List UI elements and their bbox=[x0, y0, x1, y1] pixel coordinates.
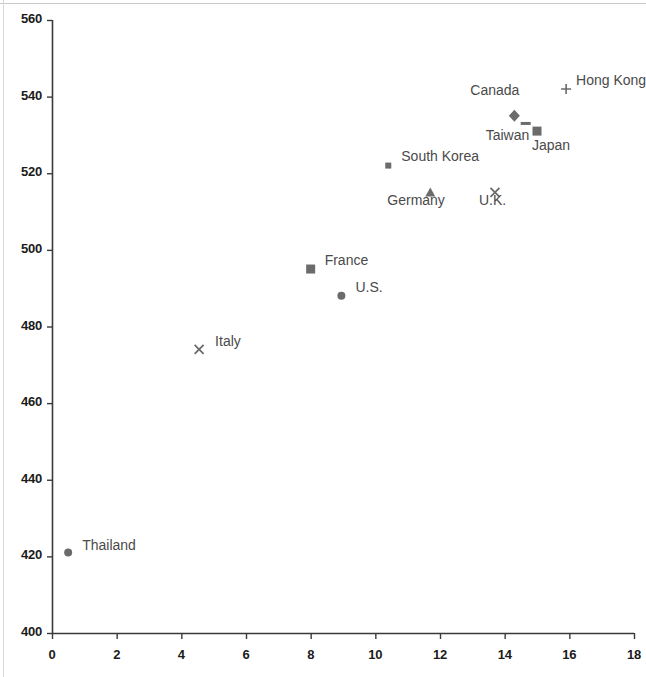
marker-taiwan bbox=[521, 122, 531, 125]
y-tick-marks bbox=[47, 21, 52, 634]
point-label-south-korea: South Korea bbox=[401, 148, 479, 164]
x-axis-tick-label: 14 bbox=[490, 647, 520, 662]
x-axis-tick-label: 12 bbox=[425, 647, 455, 662]
y-axis-tick-label: 480 bbox=[2, 318, 42, 333]
marker-u-s bbox=[337, 292, 345, 300]
point-label-japan: Japan bbox=[532, 137, 570, 153]
x-axis-tick-label: 0 bbox=[37, 647, 67, 662]
chart-figure: 4004204404604805005205405600246810121416… bbox=[0, 0, 646, 677]
point-label-taiwan: Taiwan bbox=[486, 127, 530, 143]
y-axis-tick-label: 560 bbox=[2, 11, 42, 26]
axis-spines bbox=[53, 20, 635, 634]
y-axis-tick-label: 400 bbox=[2, 624, 42, 639]
marker-japan bbox=[533, 127, 542, 136]
marker-canada bbox=[509, 110, 520, 122]
x-axis-tick-label: 8 bbox=[296, 647, 326, 662]
x-axis-tick-label: 2 bbox=[102, 647, 132, 662]
point-label-germany: Germany bbox=[387, 192, 445, 208]
marker-france bbox=[306, 265, 315, 274]
y-axis-tick-label: 540 bbox=[2, 88, 42, 103]
y-axis-tick-label: 420 bbox=[2, 547, 42, 562]
point-label-u-s: U.S. bbox=[355, 279, 382, 295]
marker-south-korea bbox=[385, 163, 391, 169]
y-axis-tick-label: 500 bbox=[2, 241, 42, 256]
x-axis-tick-label: 16 bbox=[554, 647, 584, 662]
point-label-hong-kong: Hong Kong bbox=[576, 72, 646, 88]
marker-thailand bbox=[64, 549, 72, 557]
y-axis-tick-label: 440 bbox=[2, 471, 42, 486]
x-axis-tick-label: 18 bbox=[619, 647, 646, 662]
y-axis-tick-label: 460 bbox=[2, 394, 42, 409]
marker-hong-kong bbox=[561, 84, 571, 94]
scatter-plot-canvas bbox=[0, 0, 646, 677]
point-label-canada: Canada bbox=[470, 82, 519, 98]
point-label-u-k: U.K. bbox=[479, 192, 506, 208]
axis-spine-path bbox=[53, 20, 635, 634]
point-label-thailand: Thailand bbox=[82, 537, 136, 553]
point-label-france: France bbox=[325, 252, 369, 268]
x-axis-tick-label: 10 bbox=[360, 647, 390, 662]
marker-italy bbox=[195, 345, 204, 354]
data-point-markers bbox=[64, 84, 571, 557]
point-label-italy: Italy bbox=[215, 333, 241, 349]
y-axis-tick-label: 520 bbox=[2, 164, 42, 179]
x-axis-tick-label: 4 bbox=[166, 647, 196, 662]
x-axis-tick-label: 6 bbox=[231, 647, 261, 662]
